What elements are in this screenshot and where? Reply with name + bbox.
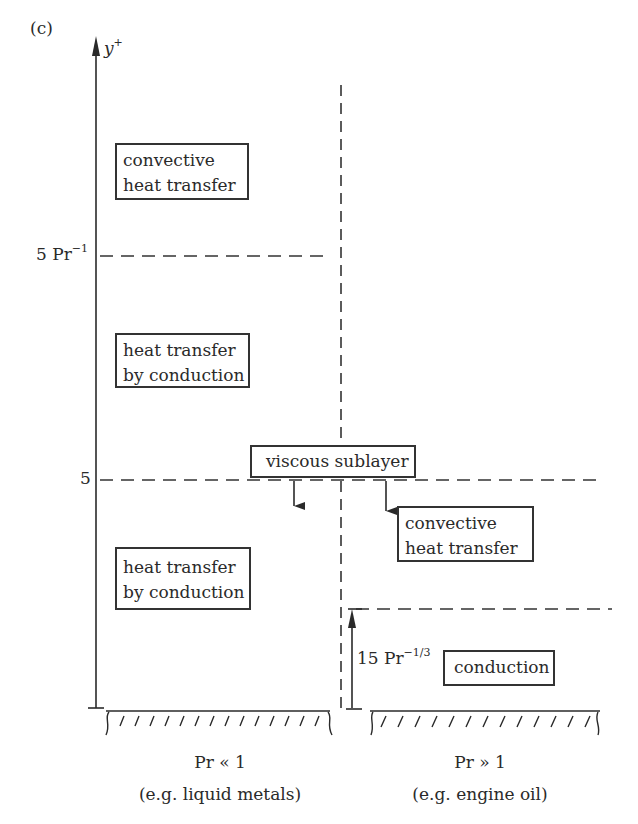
y-tick-5pr-1: 5 Pr−1 [36, 244, 88, 264]
height-15pr-label: 15 Pr−1/3 [357, 648, 431, 668]
y-axis-label: y+ [104, 38, 123, 58]
viscous-sublayer-label: viscous sublayer [266, 449, 414, 474]
region-line1: heat transfer [123, 555, 243, 580]
region-line1: convective [405, 511, 526, 536]
region-line1: conduction [454, 655, 553, 680]
bottom-right-line1: Pr » 1 [360, 746, 600, 778]
region-line1: heat transfer [123, 338, 242, 363]
region-line2: heat transfer [405, 536, 526, 561]
height-label-sup: −1/3 [404, 646, 431, 659]
viscous-sublayer-box: viscous sublayer [250, 445, 416, 478]
y-tick-5: 5 [80, 468, 91, 488]
y-tick-sup: −1 [72, 242, 88, 255]
bottom-label-left: Pr « 1 (e.g. liquid metals) [110, 746, 330, 810]
y-axis-arrow-icon [92, 36, 100, 56]
panel-label: (c) [30, 18, 53, 38]
wall-hatching-left [106, 711, 332, 735]
region-line2: by conduction [123, 363, 242, 388]
bottom-left-line2: (e.g. liquid metals) [110, 778, 330, 810]
region-line2: by conduction [123, 580, 243, 605]
bottom-right-line2: (e.g. engine oil) [360, 778, 600, 810]
left-region-conduction-upper-box: heat transfer by conduction [115, 333, 250, 388]
left-region-conduction-lower-box: heat transfer by conduction [115, 547, 251, 610]
bottom-label-right: Pr » 1 (e.g. engine oil) [360, 746, 600, 810]
y-tick-base: 5 Pr [36, 244, 72, 264]
region-line1: convective [123, 148, 241, 173]
y-axis-label-base: y [104, 38, 114, 58]
diagram-lines [0, 0, 638, 824]
y-axis [88, 36, 104, 708]
height-label-base: 15 Pr [357, 648, 404, 668]
y-axis-label-sup: + [114, 36, 123, 49]
y-tick-base: 5 [80, 468, 91, 488]
right-region-convective-box: convective heat transfer [397, 506, 534, 562]
right-region-conduction-box: conduction [443, 650, 555, 686]
bottom-left-line1: Pr « 1 [110, 746, 330, 778]
left-region-convective-box: convective heat transfer [115, 143, 249, 200]
region-line2: heat transfer [123, 173, 241, 198]
wall-hatching-right [370, 711, 600, 735]
